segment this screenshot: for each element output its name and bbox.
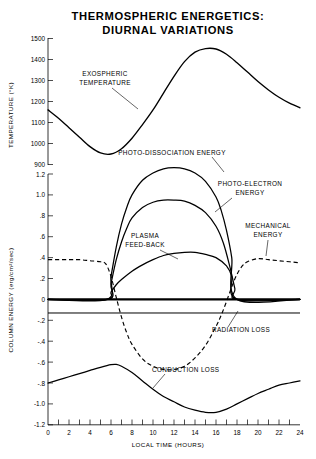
temperature-axis: 1500 1400 1300 1200 1100 1000 900 [31, 35, 53, 168]
ytick-temp-1400: 1400 [31, 56, 46, 63]
leader-photo-dissociation [212, 157, 224, 172]
xtick-16: 16 [212, 429, 220, 436]
ytick-energy--0.6: -.6 [38, 359, 46, 366]
annotation-photo-electron-line1: PHOTO-ELECTRON [218, 180, 282, 187]
ytick-energy--1.2: -1.2 [34, 421, 45, 428]
annotation-conduction-loss: CONDUCTION LOSS [152, 366, 219, 373]
series-mechanical-energy [48, 259, 300, 370]
series-plasma-feed-back [48, 252, 300, 301]
ytick-energy-0.8: .8 [40, 212, 46, 219]
ytick-temp-900: 900 [34, 161, 45, 168]
chart-title-line1: THERMOSPHERIC ENERGETICS: [72, 10, 265, 22]
ytick-energy-0.2: .2 [40, 275, 46, 282]
leader-exospheric [112, 88, 138, 109]
annotation-exospheric-line2: TEMPERATURE [79, 79, 131, 86]
xtick-20: 20 [254, 429, 262, 436]
ytick-temp-1500: 1500 [31, 35, 46, 42]
ytick-energy--0.8: -.8 [38, 380, 46, 387]
ytick-energy--0.2: -.2 [38, 317, 46, 324]
ytick-energy--0.4: -.4 [38, 338, 46, 345]
annotation-photo-electron-line2: ENERGY [235, 189, 264, 196]
xtick-24: 24 [296, 429, 304, 436]
annotation-photo-dissociation: PHOTO-DISSOCIATION ENERGY [118, 149, 226, 156]
ytick-energy-0.6: .6 [40, 233, 46, 240]
annotations-group: EXOSPHERIC TEMPERATURE PHOTO-DISSOCIATIO… [79, 70, 291, 388]
annotation-exospheric-line1: EXOSPHERIC [82, 70, 127, 77]
ytick-temp-1200: 1200 [31, 98, 46, 105]
ytick-temp-1300: 1300 [31, 77, 46, 84]
xtick-2: 2 [67, 429, 71, 436]
xtick-10: 10 [149, 429, 157, 436]
chart-title-line2: DIURNAL VARIATIONS [102, 24, 233, 36]
annotation-mechanical-line2: ENERGY [253, 231, 282, 238]
xtick-12: 12 [170, 429, 178, 436]
y-axis-label-energy: COLUMN ENERGY (erg/cm²/sec) [7, 248, 14, 353]
xtick-4: 4 [88, 429, 92, 436]
xtick-22: 22 [275, 429, 283, 436]
x-axis-label: LOCAL TIME (HOURS) [132, 441, 205, 448]
xtick-0: 0 [46, 429, 50, 436]
leader-conduction [153, 374, 165, 388]
ytick-energy-0.4: .4 [40, 254, 46, 261]
ytick-energy--1.0: -1.0 [34, 400, 45, 407]
xtick-8: 8 [130, 429, 134, 436]
ytick-temp-1000: 1000 [31, 140, 46, 147]
annotation-radiation-loss: RADIATION LOSS [212, 326, 270, 333]
ytick-energy-0: 0 [41, 296, 45, 303]
annotation-plasma-line1: PLASMA [131, 232, 159, 239]
leader-mechanical [266, 240, 268, 256]
ytick-energy-1.0: 1.0 [36, 191, 45, 198]
x-axis-minor-ticks [59, 420, 290, 425]
series-photo-electron-energy [48, 200, 300, 301]
annotation-plasma-line2: FEED-BACK [125, 241, 165, 248]
leader-plasma [160, 250, 178, 259]
series-exospheric-temperature [48, 48, 300, 154]
thermospheric-energetics-figure: THERMOSPHERIC ENERGETICS: DIURNAL VARIAT… [0, 0, 316, 459]
chart-canvas: THERMOSPHERIC ENERGETICS: DIURNAL VARIAT… [0, 0, 316, 459]
xtick-6: 6 [109, 429, 113, 436]
xtick-14: 14 [191, 429, 199, 436]
y-axis-label-temperature: TEMPERATURE (°K) [7, 82, 14, 148]
ytick-temp-1100: 1100 [31, 119, 45, 126]
x-axis: 0 2 4 6 8 10 12 14 16 18 20 22 24 [46, 420, 304, 437]
ytick-energy-1.2: 1.2 [36, 171, 45, 178]
annotation-mechanical-line1: MECHANICAL [245, 222, 290, 229]
xtick-18: 18 [233, 429, 241, 436]
